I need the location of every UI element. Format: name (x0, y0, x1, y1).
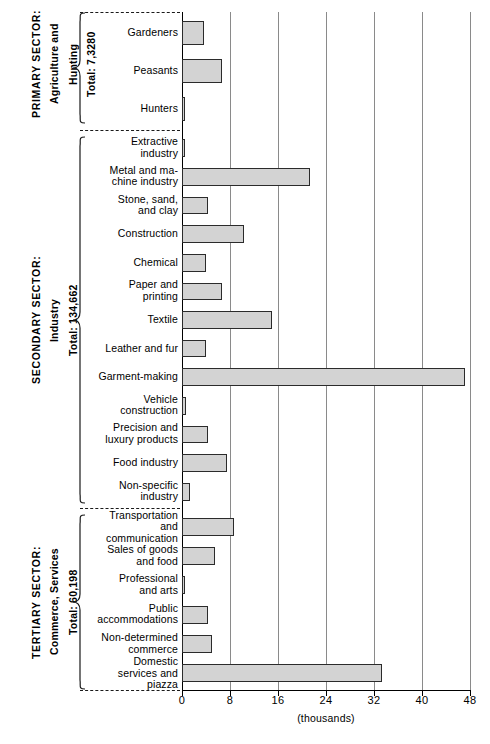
gridline-8 (230, 12, 231, 690)
tick-label-16: 16 (263, 694, 293, 706)
category-label: Transportation and communication (78, 509, 178, 544)
bar (182, 21, 204, 45)
category-label: Hunters (78, 103, 178, 115)
bar (182, 518, 234, 536)
bar (182, 311, 272, 329)
category-label: Garment-making (78, 371, 178, 383)
sector-name-secondary: SECONDARY SECTOR: (30, 256, 42, 384)
bar (182, 197, 208, 215)
sector-label-secondary: SECONDARY SECTOR: Industry Total: 134,66… (8, 135, 70, 505)
sector-label-tertiary: TERTIARY SECTOR: Commerce, Services Tota… (8, 512, 70, 692)
plot-area (182, 12, 470, 690)
sector-name-tertiary: TERTIARY SECTOR: (30, 545, 42, 658)
category-label-column: GardenersPeasantsHuntersExtractive indus… (78, 12, 178, 690)
category-label: Extractive industry (78, 137, 178, 160)
tick-label-48: 48 (455, 694, 485, 706)
bar (182, 283, 222, 301)
sector-label-primary: PRIMARY SECTOR: Agriculture and Hunting … (8, 8, 70, 120)
bar (182, 225, 244, 243)
category-label: Public accommodations (78, 603, 178, 626)
bar (182, 635, 212, 653)
gridline-48 (470, 12, 471, 690)
gridline-32 (374, 12, 375, 690)
x-axis-title: (thousands) (182, 712, 470, 724)
bar (182, 368, 465, 386)
category-label: Metal and ma- chine industry (78, 165, 178, 188)
category-label: Food industry (78, 457, 178, 469)
bar (182, 59, 222, 83)
gridline-16 (278, 12, 279, 690)
bar (182, 254, 206, 272)
gridline-40 (422, 12, 423, 690)
category-label: Peasants (78, 65, 178, 77)
bar (182, 576, 185, 594)
tick-label-32: 32 (359, 694, 389, 706)
category-label: Leather and fur (78, 343, 178, 355)
category-label: Non-determined commerce (78, 632, 178, 655)
tick-label-24: 24 (311, 694, 341, 706)
category-label: Textile (78, 314, 178, 326)
bar (182, 547, 215, 565)
bar (182, 454, 227, 472)
bar (182, 168, 310, 186)
tick-label-0: 0 (167, 694, 197, 706)
bar (182, 664, 382, 682)
category-label: Stone, sand, and clay (78, 194, 178, 217)
category-label: Precision and luxury products (78, 423, 178, 446)
bar (182, 139, 185, 157)
sector-sub-secondary: Industry (48, 298, 60, 341)
chart-page: PRIMARY SECTOR: Agriculture and Hunting … (0, 0, 490, 744)
category-label: Sales of goods and food (78, 544, 178, 567)
category-label: Non-specific industry (78, 480, 178, 503)
category-label: Domestic services and piazza (78, 656, 178, 691)
category-label: Vehicle construction (78, 394, 178, 417)
category-label: Construction (78, 228, 178, 240)
category-label: Gardeners (78, 27, 178, 39)
category-label: Chemical (78, 257, 178, 269)
bar (182, 426, 208, 444)
bar (182, 397, 186, 415)
tick-label-40: 40 (407, 694, 437, 706)
tick-label-8: 8 (215, 694, 245, 706)
sector-name-primary: PRIMARY SECTOR: (30, 10, 42, 118)
category-label: Professional and arts (78, 574, 178, 597)
bar (182, 483, 190, 501)
bar (182, 606, 208, 624)
category-label: Paper and printing (78, 280, 178, 303)
bar (182, 97, 185, 121)
bar (182, 340, 206, 358)
sector-sub-tertiary: Commerce, Services (48, 549, 60, 656)
gridline-24 (326, 12, 327, 690)
